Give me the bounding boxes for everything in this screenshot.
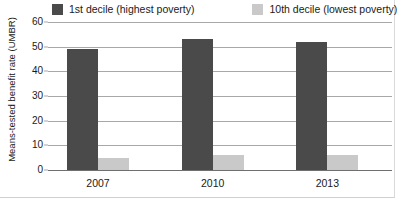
y-tick-label-20: 20 [32,116,43,126]
legend-label-10th-decile: 10th decile (lowest poverty) [269,4,397,15]
bar-2013-series-1[interactable] [296,42,327,170]
y-tick-label-40: 40 [32,66,43,76]
legend-item-1st-decile[interactable]: 1st decile (highest poverty) [52,4,194,15]
bar-2010-series-2[interactable] [213,155,244,170]
x-axis-label-2007: 2007 [67,178,129,189]
y-tick-label-50: 50 [32,42,43,52]
x-axis-label-2013: 2013 [296,178,358,189]
y-tick-mark-50 [44,46,48,47]
bar-2007-series-2[interactable] [98,158,129,170]
y-tick-mark-20 [44,120,48,121]
y-tick-label-0: 0 [37,165,43,175]
bar-2007-series-1[interactable] [67,49,98,170]
y-tick-mark-0 [44,170,48,171]
y-tick-label-60: 60 [32,17,43,27]
bar-2013-series-2[interactable] [327,155,358,170]
bar-group-2007: 2007 [67,22,129,170]
x-axis-label-2010: 2010 [182,178,244,189]
y-tick-label-30: 30 [32,91,43,101]
chart-legend: 1st decile (highest poverty) 10th decile… [52,1,392,18]
bar-group-2010: 2010 [182,22,244,170]
bar-2010-series-1[interactable] [182,39,213,170]
plot-area: 0102030405060200720102013 [48,22,392,170]
y-tick-mark-40 [44,71,48,72]
bar-group-2013: 2013 [296,22,358,170]
y-axis-title: Means-tested benefit rate (UMBR) [6,15,17,165]
y-tick-mark-60 [44,22,48,23]
legend-item-10th-decile[interactable]: 10th decile (lowest poverty) [252,4,397,15]
y-tick-mark-30 [44,96,48,97]
legend-swatch-10th-decile [252,4,263,15]
y-tick-mark-10 [44,145,48,146]
legend-label-1st-decile: 1st decile (highest poverty) [69,4,194,15]
x-axis-line [48,170,392,171]
y-tick-label-10: 10 [32,140,43,150]
legend-swatch-1st-decile [52,4,63,15]
